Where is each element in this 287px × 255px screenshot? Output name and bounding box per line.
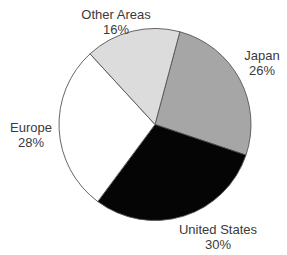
label-japan-value: 26%	[239, 63, 285, 78]
label-other-areas-value: 16%	[76, 22, 156, 37]
label-europe-value: 28%	[6, 135, 56, 150]
label-japan: Japan 26%	[239, 48, 285, 78]
label-europe: Europe 28%	[6, 120, 56, 150]
label-united-states-name: United States	[173, 222, 263, 237]
label-europe-name: Europe	[6, 120, 56, 135]
pie-slices	[59, 28, 251, 220]
label-other-areas: Other Areas 16%	[76, 7, 156, 37]
label-japan-name: Japan	[239, 48, 285, 63]
label-united-states: United States 30%	[173, 222, 263, 252]
label-other-areas-name: Other Areas	[76, 7, 156, 22]
label-united-states-value: 30%	[173, 237, 263, 252]
